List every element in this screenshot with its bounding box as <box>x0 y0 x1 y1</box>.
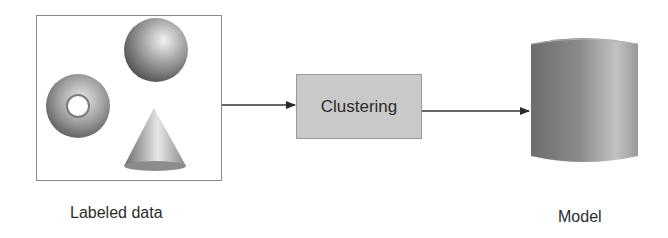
sphere-icon <box>124 18 188 82</box>
cone-icon <box>124 108 186 171</box>
model-cylinder-icon <box>531 38 638 162</box>
model-label: Model <box>558 208 602 226</box>
torus-icon <box>46 74 110 138</box>
labeled-data-label: Labeled data <box>70 204 163 222</box>
clustering-box: Clustering <box>296 74 422 139</box>
clustering-label: Clustering <box>321 97 398 117</box>
